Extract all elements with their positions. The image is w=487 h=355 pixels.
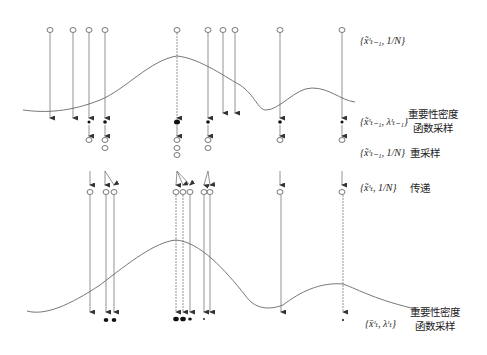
row-weight1-label-line2: 函数采样: [408, 122, 458, 136]
row-weight1-label: 重要性密度 函数采样: [408, 108, 458, 135]
final-weighted-particles: [104, 317, 344, 322]
prior-to-weight-lines: [50, 33, 342, 118]
row-weight1-math: {x̃ᶦₜ₋₁, λᶦₜ₋₁}: [360, 117, 408, 127]
weight-to-resample-lines: [89, 125, 342, 136]
propagated-particles: [87, 190, 345, 195]
row-weight2-label: 重要性密度 函数采样: [410, 306, 460, 333]
propagation-lines: [90, 171, 342, 185]
resampled-particles: [86, 138, 345, 158]
likelihood-curve-bottom: [27, 240, 420, 312]
row-weight2-math: {x̄ᶦₜ, λᶦₜ}: [365, 319, 396, 329]
weighted-particles: [88, 120, 344, 125]
row-resample-math: {x̃ᶦₜ₋₁, 1/N}: [360, 148, 405, 158]
row-prior-math: {x̃ᶦₜ₋₁, 1/N}: [360, 36, 405, 46]
particle-filter-diagram: [0, 0, 487, 355]
prior-particles: [47, 28, 345, 33]
row-propagate-math: {x̃ᶦₜ, 1/N}: [360, 183, 396, 193]
row-weight2-label-line2: 函数采样: [410, 320, 460, 334]
propagated-to-weight-lines: [90, 195, 343, 312]
row-weight2-label-line1: 重要性密度: [410, 306, 460, 320]
row-propagate-label: 传递: [410, 182, 430, 196]
row-resample-label: 重采样: [410, 147, 440, 161]
row-weight1-label-line1: 重要性密度: [408, 108, 458, 122]
